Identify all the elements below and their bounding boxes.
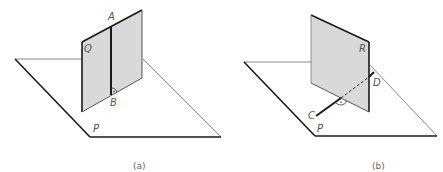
- label-b: B: [110, 97, 117, 108]
- plane-p-a-back-right-edge: [143, 59, 221, 137]
- perpendicular-planes-diagram: A B Q P (a) C D R P (b): [0, 0, 443, 172]
- label-p-a: P: [93, 123, 100, 134]
- label-c: C: [308, 110, 315, 121]
- right-angle-dot-cd: [340, 101, 341, 102]
- line-cd-front: [316, 98, 341, 116]
- right-angle-dot-b: [113, 91, 114, 92]
- caption-b: (b): [372, 161, 385, 171]
- label-q: Q: [84, 43, 92, 54]
- figure-a: A B Q P (a): [15, 10, 221, 171]
- plane-p-b-back-right-edge: [370, 65, 437, 136]
- plane-p-a-left-edge: [15, 59, 90, 137]
- label-a: A: [107, 11, 115, 22]
- plane-r: [311, 15, 369, 112]
- caption-a: (a): [133, 161, 146, 171]
- figure-b: C D R P (b): [244, 15, 437, 171]
- label-p-b: P: [317, 123, 324, 134]
- label-d: D: [373, 77, 381, 88]
- label-r: R: [359, 43, 366, 54]
- plane-p-b-left-edge: [244, 62, 315, 136]
